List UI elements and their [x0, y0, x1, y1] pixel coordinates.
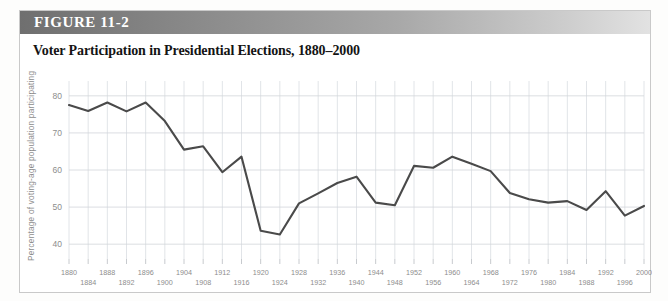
svg-text:1960: 1960 [444, 268, 460, 277]
svg-text:1912: 1912 [214, 268, 230, 277]
svg-text:1996: 1996 [617, 278, 633, 287]
svg-text:1920: 1920 [253, 268, 269, 277]
svg-text:1980: 1980 [540, 278, 556, 287]
svg-text:1984: 1984 [559, 268, 575, 277]
svg-text:1888: 1888 [99, 268, 115, 277]
figure-page: FIGURE 11-2 Voter Participation in Presi… [0, 0, 668, 301]
svg-text:1964: 1964 [464, 278, 480, 287]
svg-text:1884: 1884 [80, 278, 96, 287]
svg-text:50: 50 [53, 202, 63, 212]
svg-text:1928: 1928 [291, 268, 307, 277]
x-axis-tick-marks [69, 259, 644, 264]
figure-label: FIGURE 11-2 [34, 14, 129, 31]
figure-header-bar: FIGURE 11-2 [20, 11, 650, 34]
y-axis-tick-labels: 4050607080 [53, 91, 63, 249]
svg-text:1948: 1948 [387, 278, 403, 287]
svg-text:60: 60 [53, 165, 63, 175]
svg-text:1952: 1952 [406, 268, 422, 277]
svg-text:1880: 1880 [61, 268, 77, 277]
svg-text:1892: 1892 [119, 278, 135, 287]
svg-text:40: 40 [53, 239, 63, 249]
figure-title: Voter Participation in Presidential Elec… [33, 43, 360, 59]
svg-text:1940: 1940 [349, 278, 365, 287]
chart-plot-area: 4050607080 18801884188818921896190019041… [20, 67, 652, 293]
svg-text:1904: 1904 [176, 268, 192, 277]
svg-text:80: 80 [53, 91, 63, 101]
svg-text:1968: 1968 [483, 268, 499, 277]
svg-text:1972: 1972 [502, 278, 518, 287]
y-axis-label: Percentage of voting-age population part… [27, 71, 36, 261]
x-axis-tick-labels: 1880188418881892189619001904190819121916… [61, 268, 652, 287]
figure-label-text: FIGURE 11-2 [34, 14, 129, 30]
svg-text:1908: 1908 [195, 278, 211, 287]
figure-container: FIGURE 11-2 Voter Participation in Presi… [19, 10, 651, 293]
svg-text:1900: 1900 [157, 278, 173, 287]
svg-text:1988: 1988 [579, 278, 595, 287]
svg-text:70: 70 [53, 128, 63, 138]
svg-text:2000: 2000 [636, 268, 652, 277]
svg-text:1944: 1944 [368, 268, 384, 277]
svg-text:1924: 1924 [272, 278, 288, 287]
svg-text:1936: 1936 [329, 268, 345, 277]
svg-text:1932: 1932 [310, 278, 326, 287]
svg-text:1956: 1956 [425, 278, 441, 287]
svg-text:1896: 1896 [138, 268, 154, 277]
svg-text:1976: 1976 [521, 268, 537, 277]
svg-text:1992: 1992 [598, 268, 614, 277]
line-chart: 4050607080 18801884188818921896190019041… [20, 67, 652, 293]
svg-text:1916: 1916 [234, 278, 250, 287]
